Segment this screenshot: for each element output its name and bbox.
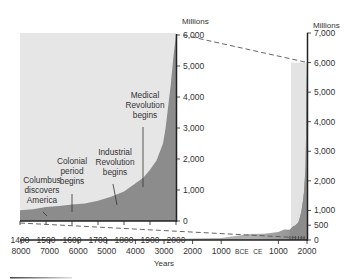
annotation-text: begins: [133, 110, 157, 120]
annotation-text: Revolution: [125, 100, 165, 110]
annotation-text: begins: [60, 176, 84, 186]
main-x-tick-label: 8000: [12, 246, 31, 256]
population-chart: ColumbusdiscoversAmericaColonialperiodbe…: [0, 0, 361, 279]
main-x-tick-label: CE: [253, 248, 263, 255]
annotation-text: begins: [103, 167, 127, 177]
main-x-tick-label: 4000: [126, 246, 145, 256]
annotation-text: America: [27, 195, 58, 205]
main-y-tick-label: 3,000: [314, 146, 336, 156]
main-y-tick-label: 5,000: [314, 87, 336, 97]
main-y-tick-label: 2,000: [314, 176, 336, 186]
main-x-tick-label: 1000: [212, 246, 231, 256]
inset-y-tick-label: 2,000: [183, 154, 205, 164]
main-y-tick-label: 0: [314, 235, 319, 245]
inset-y-tick-label: 3,000: [183, 123, 205, 133]
inset-y-axis-title: Millions: [182, 17, 209, 26]
main-x-ticks: 80007000600050004000300020001000BCECE100…: [12, 240, 317, 256]
main-x-axis-title: Years: [154, 259, 174, 268]
inset-x-ticks: 1400150016001700180019002000: [11, 221, 186, 245]
annotation-text: Medical: [131, 90, 160, 100]
main-x-tick-label: 2000: [298, 246, 317, 256]
main-y-tick-label: 500: [314, 220, 328, 230]
inset-y-tick-label: 0: [183, 216, 188, 226]
main-y-ticks: 05001,0002,0003,0004,0005,0006,0007,000: [307, 28, 336, 245]
annotation-text: Colonial: [57, 156, 87, 166]
annotation-text: Columbus: [23, 175, 60, 185]
footer-rule: [10, 277, 72, 279]
main-x-tick-label: BCE: [235, 248, 249, 255]
main-x-tick-label: 6000: [69, 246, 88, 256]
main-x-tick-label: 3000: [155, 246, 174, 256]
connector-top-dash: [183, 35, 305, 62]
main-x-tick-label: 1000: [269, 246, 288, 256]
inset-y-tick-label: 4,000: [183, 92, 205, 102]
main-x-tick-label: 7000: [40, 246, 59, 256]
main-x-tick-label: 5000: [97, 246, 116, 256]
main-x-tick-label: 2000: [183, 246, 202, 256]
main-y-axis-title: Millions: [313, 21, 340, 30]
main-y-tick-label: 6,000: [314, 58, 336, 68]
inset-chart: ColumbusdiscoversAmericaColonialperiodbe…: [11, 17, 209, 245]
annotation-text: discovers: [24, 185, 59, 195]
annotation-text: Industrial: [98, 147, 132, 157]
annotation-text: Revolution: [95, 157, 135, 167]
main-y-tick-label: 4,000: [314, 117, 336, 127]
inset-y-ticks: 01,0002,0003,0004,0005,0006,000: [176, 30, 205, 226]
inset-y-tick-label: 1,000: [183, 185, 205, 195]
main-y-tick-label: 1,000: [314, 205, 336, 215]
inset-y-tick-label: 5,000: [183, 61, 205, 71]
annotation-text: period: [60, 166, 83, 176]
inset-y-tick-label: 6,000: [183, 30, 205, 40]
